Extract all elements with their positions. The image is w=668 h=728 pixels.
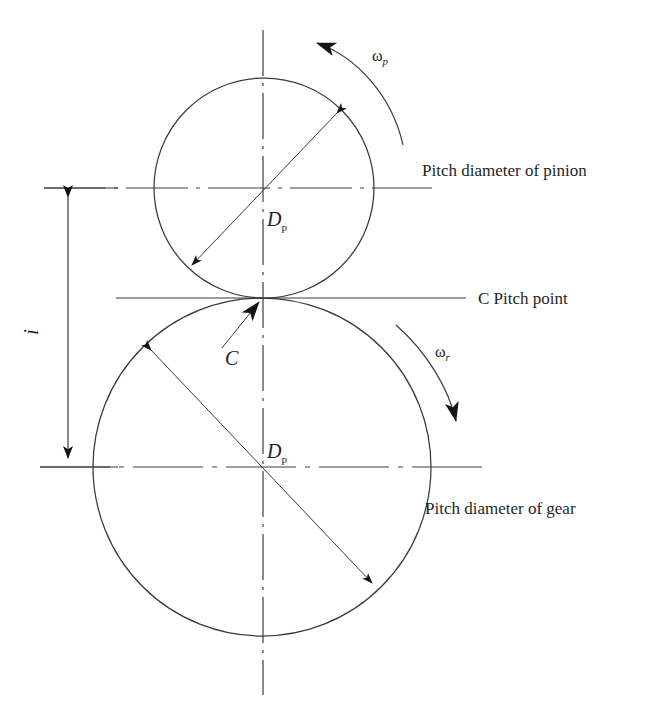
- diagram-canvas: i Dp Dp C ωp ωr Pitch diameter of pinion…: [0, 0, 668, 728]
- pitch-point-leader: [222, 302, 259, 348]
- omega-pinion-label: ωp: [372, 47, 389, 67]
- caption-pitch-diameter-gear: Pitch diameter of gear: [425, 499, 576, 518]
- gear-pitch-diagram: i Dp Dp C ωp ωr Pitch diameter of pinion…: [0, 0, 668, 728]
- gear-diameter-label: Dp: [266, 440, 287, 465]
- caption-pitch-diameter-pinion: Pitch diameter of pinion: [422, 161, 587, 180]
- caption-pitch-point: C Pitch point: [478, 289, 568, 308]
- pitch-point-marker-label: C: [225, 347, 239, 369]
- pinion-diameter-label: Dp: [266, 208, 287, 233]
- omega-gear-arc-arrow: [396, 325, 456, 421]
- omega-pinion-arc-arrow: [317, 43, 403, 145]
- pinion-diameter-arrow: [192, 113, 337, 265]
- center-distance-label: i: [20, 329, 42, 335]
- omega-gear-label: ωr: [435, 343, 451, 363]
